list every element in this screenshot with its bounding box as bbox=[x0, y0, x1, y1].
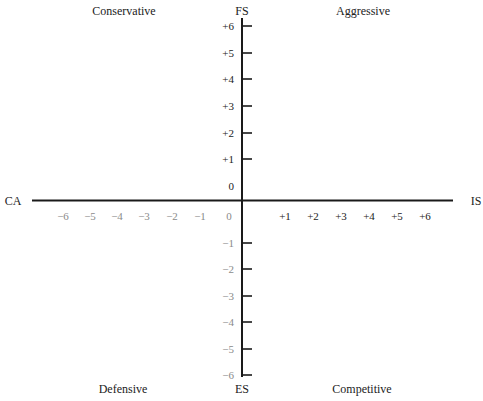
x-tick-label: +2 bbox=[307, 210, 319, 222]
y-tick-label: +5 bbox=[222, 47, 234, 59]
x-tick-label: 0 bbox=[226, 210, 232, 222]
y-tick-label: +4 bbox=[222, 73, 234, 85]
x-tick-label: −6 bbox=[57, 210, 69, 222]
x-tick-label: −5 bbox=[84, 210, 96, 222]
x-tick-label: +4 bbox=[363, 210, 375, 222]
x-tick-label: −3 bbox=[138, 210, 150, 222]
x-tick-label: −4 bbox=[111, 210, 123, 222]
x-negative-tick-labels: −6 −5 −4 −3 −2 −1 0 bbox=[57, 210, 232, 222]
axis-label-ca: CA bbox=[5, 194, 22, 208]
x-tick-label: −1 bbox=[194, 210, 206, 222]
space-matrix-diagram: FS ES CA IS Conservative Aggressive Defe… bbox=[0, 0, 483, 401]
y-tick-label: +3 bbox=[222, 100, 234, 112]
quadrant-label-defensive: Defensive bbox=[99, 382, 148, 396]
x-tick-label: +3 bbox=[335, 210, 347, 222]
quadrant-label-aggressive: Aggressive bbox=[336, 4, 390, 18]
y-tick-label: −6 bbox=[222, 369, 234, 381]
y-tick-label: +1 bbox=[222, 153, 234, 165]
y-tick-label: −2 bbox=[222, 263, 234, 275]
quadrant-label-competitive: Competitive bbox=[332, 382, 391, 396]
y-tick-label: +2 bbox=[222, 127, 234, 139]
x-positive-tick-labels: +1 +2 +3 +4 +5 +6 bbox=[279, 210, 431, 222]
y-tick-label: −3 bbox=[222, 290, 234, 302]
axis-label-is: IS bbox=[471, 194, 482, 208]
axis-label-es: ES bbox=[235, 382, 249, 396]
x-tick-label: +6 bbox=[419, 210, 431, 222]
y-tick-label: 0 bbox=[229, 180, 235, 192]
y-tick-label: +6 bbox=[222, 20, 234, 32]
y-tick-label: −5 bbox=[222, 343, 234, 355]
x-tick-label: +5 bbox=[391, 210, 403, 222]
axis-label-fs: FS bbox=[235, 4, 248, 18]
y-positive-tick-labels: +6 +5 +4 +3 +2 +1 0 bbox=[222, 20, 234, 192]
x-tick-label: +1 bbox=[279, 210, 291, 222]
x-tick-label: −2 bbox=[166, 210, 178, 222]
y-tick-label: −1 bbox=[222, 237, 234, 249]
y-negative-tick-labels: −1 −2 −3 −4 −5 −6 bbox=[222, 237, 234, 381]
y-tick-label: −4 bbox=[222, 316, 234, 328]
quadrant-label-conservative: Conservative bbox=[92, 4, 155, 18]
